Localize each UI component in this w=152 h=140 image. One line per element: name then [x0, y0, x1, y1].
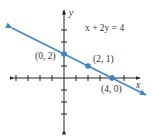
- point-2-1: [85, 63, 91, 69]
- point-label-2-1: (2, 1): [93, 54, 114, 65]
- y-axis-label: y: [68, 8, 74, 18]
- equation-label: x + 2y = 4: [85, 23, 124, 33]
- point-4-0: [109, 75, 115, 81]
- point-label-4-0: (4, 0): [101, 84, 122, 95]
- x-axis-label: x: [135, 80, 141, 90]
- coordinate-plane: y x x + 2y = 4 (0, 2) (2, 1) (4, 0): [0, 0, 152, 140]
- graph-line: [12, 28, 146, 95]
- point-label-0-2: (0, 2): [35, 51, 56, 62]
- point-0-2: [61, 51, 67, 57]
